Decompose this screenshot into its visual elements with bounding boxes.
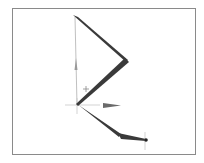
bone-tip[interactable] [118, 133, 146, 141]
armature-scene[interactable] [0, 0, 204, 163]
bone-lower[interactable] [76, 103, 121, 137]
x-axis-arrow-icon[interactable] [103, 103, 121, 108]
y-axis-arrow-icon[interactable] [75, 58, 78, 70]
cursor-icon [83, 86, 89, 92]
bone-middle[interactable] [76, 58, 129, 106]
tip-joint-icon[interactable] [144, 138, 148, 142]
bone-upper[interactable] [73, 15, 128, 62]
